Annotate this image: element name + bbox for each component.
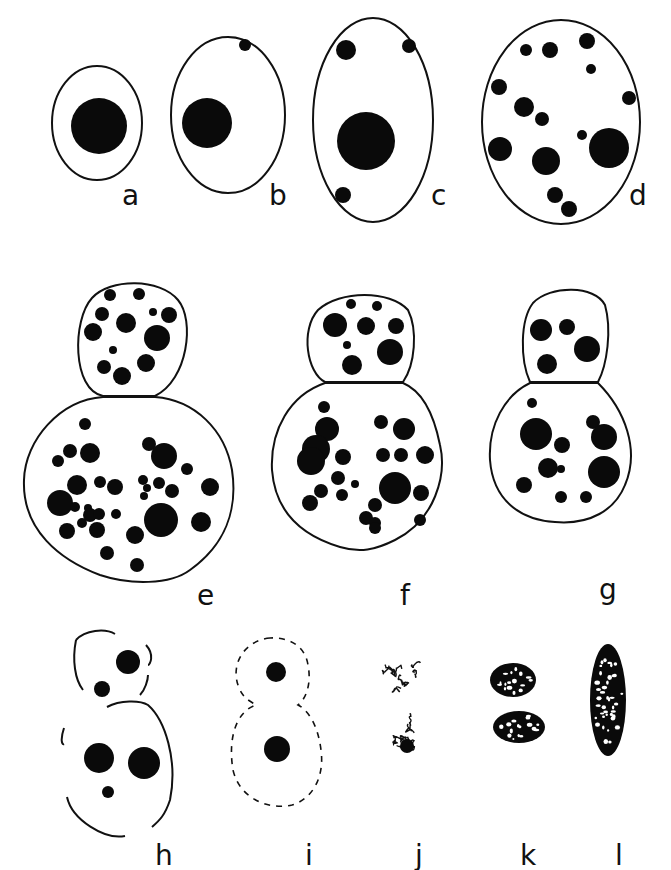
chromatin-gap bbox=[526, 676, 532, 679]
nucleolus-dot bbox=[376, 448, 390, 462]
chromatin-gap bbox=[596, 705, 601, 707]
panel-label-f: f bbox=[400, 582, 410, 610]
nucleolus-dot bbox=[547, 187, 563, 203]
nucleolus-dot bbox=[181, 463, 193, 475]
chromatin-gap bbox=[507, 686, 513, 690]
nucleolus-dot bbox=[343, 341, 351, 349]
nucleolus-dot bbox=[516, 477, 532, 493]
nucleolus-dot bbox=[201, 478, 219, 496]
chromatin-gap bbox=[507, 681, 511, 684]
nucleolus-dot bbox=[191, 512, 211, 532]
nucleolus-dot bbox=[116, 650, 140, 674]
nucleolus-dot bbox=[47, 490, 73, 516]
chromatin-gap bbox=[601, 660, 604, 664]
nucleolus-dot bbox=[137, 354, 155, 372]
nucleolus-dot bbox=[182, 98, 232, 148]
nucleolus-dot bbox=[337, 112, 395, 170]
nucleolus-dot bbox=[527, 398, 537, 408]
nucleolus-dot bbox=[331, 471, 345, 485]
nucleolus-dot bbox=[369, 522, 381, 534]
chromatin-gap bbox=[536, 723, 539, 726]
chromatin-gap bbox=[612, 706, 614, 710]
chromatin-gap bbox=[512, 738, 514, 740]
nucleolus-dot bbox=[559, 319, 575, 335]
nucleolus-dot bbox=[104, 289, 116, 301]
chromatin-gap bbox=[602, 686, 608, 690]
nucleolus-dot bbox=[116, 313, 136, 333]
nucleolus-dot bbox=[402, 39, 416, 53]
chromatin-gap bbox=[606, 714, 608, 717]
cell-membrane bbox=[272, 383, 442, 550]
nucleolus-dot bbox=[591, 424, 617, 450]
nucleolus-dot bbox=[589, 128, 629, 168]
panel-label-d: d bbox=[629, 182, 647, 210]
nucleolus-dot bbox=[377, 339, 403, 365]
chromatin-gap bbox=[604, 739, 609, 744]
panel-label-k: k bbox=[520, 842, 536, 870]
nucleolus-dot bbox=[63, 444, 77, 458]
panel-label-h: h bbox=[155, 842, 173, 870]
chromatin-gap bbox=[608, 740, 611, 743]
nucleolus-dot bbox=[151, 443, 177, 469]
nucleolus-dot bbox=[143, 484, 151, 492]
nucleolus-dot bbox=[266, 662, 286, 682]
nucleolus-dot bbox=[379, 472, 411, 504]
nucleolus-dot bbox=[89, 522, 105, 538]
nucleolus-dot bbox=[107, 479, 123, 495]
chromatin-gap bbox=[518, 725, 521, 728]
nucleolus-dot bbox=[144, 325, 170, 351]
panel-label-j: j bbox=[415, 842, 423, 870]
nucleolus-dot bbox=[388, 318, 404, 334]
chromatin-gap bbox=[609, 697, 614, 699]
nucleolus-dot bbox=[416, 446, 434, 464]
chromatin-gap bbox=[595, 717, 598, 720]
cell-stages-diagram bbox=[0, 0, 671, 870]
nucleolus-dot bbox=[97, 360, 111, 374]
nucleolus-dot bbox=[113, 367, 131, 385]
nucleolus-dot bbox=[128, 747, 160, 779]
nucleolus-dot bbox=[153, 477, 165, 489]
nucleolus-dot bbox=[336, 40, 356, 60]
nucleolus-dot bbox=[165, 484, 179, 498]
chromatin-gap bbox=[513, 691, 516, 695]
nucleolus-dot bbox=[84, 323, 102, 341]
nucleolus-dot bbox=[302, 495, 318, 511]
nucleolus-dot bbox=[109, 346, 117, 354]
nucleolus-dot bbox=[335, 187, 351, 203]
nucleolus-dot bbox=[357, 317, 375, 335]
nucleolus-dot bbox=[557, 465, 565, 473]
nucleolus-dot bbox=[239, 39, 251, 51]
chromatin-bodies bbox=[382, 644, 626, 756]
chromatin-gap bbox=[611, 710, 616, 712]
panel-label-c: c bbox=[431, 182, 446, 210]
nucleolus-dot bbox=[336, 489, 348, 501]
chromatin-gap bbox=[512, 679, 517, 684]
chromatin-gap bbox=[520, 684, 525, 686]
nucleolus-dot bbox=[537, 354, 557, 374]
chromatin-gap bbox=[607, 729, 609, 731]
nucleolus-dot bbox=[84, 743, 114, 773]
chromatin-gap bbox=[596, 688, 601, 691]
chromatin-gap bbox=[518, 734, 520, 737]
nucleolus-dot bbox=[102, 786, 114, 798]
chromatin-gap bbox=[620, 693, 623, 695]
cell-panel-f bbox=[272, 295, 442, 550]
nucleolus-dot bbox=[133, 288, 145, 300]
nucleolus-dot bbox=[138, 475, 148, 485]
panel-label-i: i bbox=[305, 842, 313, 870]
chromatin-gap bbox=[606, 680, 609, 684]
nucleolus-dot bbox=[414, 514, 426, 526]
chromatin-gap bbox=[510, 729, 513, 734]
panel-label-l: l bbox=[615, 842, 623, 870]
nucleolus-dot bbox=[323, 313, 347, 337]
nucleolus-dot bbox=[346, 299, 356, 309]
chromatin-gap bbox=[527, 723, 533, 727]
panel-label-e: e bbox=[197, 582, 214, 610]
nucleolus-dot bbox=[314, 484, 328, 498]
nucleolus-dot bbox=[374, 415, 388, 429]
panel-label-b: b bbox=[269, 182, 287, 210]
nucleolus-dot bbox=[488, 137, 512, 161]
chromatin-gap bbox=[507, 733, 511, 737]
chromatin-gap bbox=[614, 662, 618, 666]
chromatin-gap bbox=[596, 696, 601, 700]
